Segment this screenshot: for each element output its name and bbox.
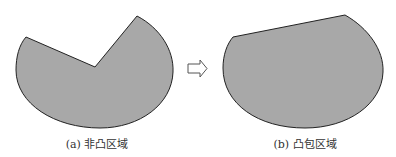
caption-a: (a) 非凸区域 bbox=[66, 135, 129, 151]
caption-b: (b) 凸包区域 bbox=[273, 135, 336, 151]
convex-hull-region-shape bbox=[223, 15, 383, 128]
figure-canvas bbox=[0, 0, 396, 157]
non-convex-region-shape bbox=[16, 16, 173, 128]
hollow-right-arrow-icon bbox=[188, 60, 207, 77]
